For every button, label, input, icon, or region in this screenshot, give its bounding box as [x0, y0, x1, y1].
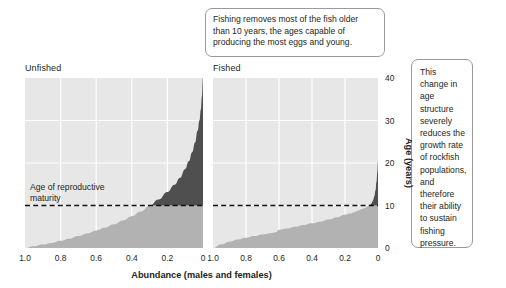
xtick-label: 1.0 — [19, 253, 31, 263]
maturity-label-line1: Age of reproductive — [30, 182, 105, 192]
chart-panel-fished: 1.00.80.60.40.20010203040Age (years) — [207, 73, 414, 263]
fisheries-age-structure-figure: Unfished Fished Fishing removes most of … — [0, 0, 506, 288]
xtick-label: 0.2 — [339, 253, 351, 263]
xtick-label: 0.8 — [240, 253, 252, 263]
x-axis-title: Abundance (males and females) — [131, 270, 271, 280]
ytick-label: 20 — [385, 158, 395, 168]
xtick-label: 0.8 — [55, 253, 67, 263]
ytick-label: 40 — [385, 73, 395, 83]
chart-panel-unfished: 1.00.80.60.40.20Age of reproductivematur… — [19, 78, 205, 263]
y-axis-title: Age (years) — [404, 138, 414, 188]
xtick-label: 0.2 — [162, 253, 174, 263]
ytick-label: 0 — [385, 243, 390, 253]
xtick-label: 0 — [201, 253, 206, 263]
xtick-label: 0 — [376, 253, 381, 263]
xtick-label: 0.6 — [273, 253, 285, 263]
xtick-label: 1.0 — [207, 253, 219, 263]
charts-canvas: 1.00.80.60.40.20Age of reproductivematur… — [0, 0, 506, 288]
ytick-label: 10 — [385, 201, 395, 211]
ytick-label: 30 — [385, 116, 395, 126]
xtick-label: 0.6 — [90, 253, 102, 263]
maturity-label-line2: maturity — [30, 193, 61, 203]
xtick-label: 0.4 — [126, 253, 138, 263]
xtick-label: 0.4 — [306, 253, 318, 263]
